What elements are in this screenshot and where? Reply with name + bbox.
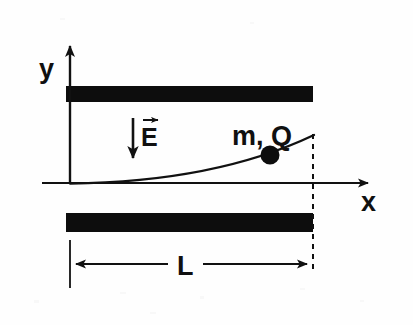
x-axis-label: x (361, 187, 376, 217)
length-label: L (177, 251, 194, 281)
top-capacitor-plate (66, 86, 313, 102)
physics-diagram: y x E m, Q L (0, 0, 413, 325)
particle-label: m, Q (232, 121, 292, 151)
bottom-capacitor-plate (66, 213, 313, 232)
diagram-canvas: y x E m, Q L (0, 0, 413, 325)
y-axis-label: y (39, 54, 54, 84)
scan-noise (34, 18, 364, 314)
electric-field-label: E (141, 123, 158, 151)
